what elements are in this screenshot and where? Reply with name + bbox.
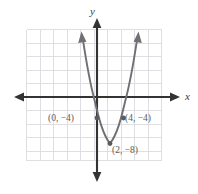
point-label-right: (4, −4) [125,114,151,124]
y-axis-label: y [90,6,95,17]
x-axis-label: x [185,91,190,102]
coordinate-plane-svg [0,0,198,194]
point-label-left: (0, −4) [48,114,74,124]
point-label-vertex: (2, −8) [112,146,138,156]
parabola-curve [78,32,142,144]
graph-figure: y x (0, −4) (4, −4) (2, −8) [0,0,198,194]
point-marker-left [95,116,100,121]
